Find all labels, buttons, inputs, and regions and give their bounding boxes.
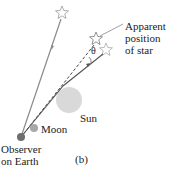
moon-label: Moon	[41, 123, 67, 135]
sun-label: Sun	[80, 112, 97, 124]
apparent-position-label: Apparent position of star	[125, 20, 166, 56]
observer-label: Observer on Earth	[1, 143, 41, 167]
distant-star-icon	[56, 6, 69, 19]
theta-arc	[89, 57, 91, 63]
theta-label: θ	[91, 45, 96, 57]
observer-label-line-1: Observer	[1, 143, 41, 155]
actual-star-icon	[100, 43, 113, 56]
apparent-label-line-3: of star	[125, 44, 166, 56]
apparent-star-icon	[90, 32, 103, 45]
apparent-label-line-2: position	[125, 32, 166, 44]
panel-label: (b)	[75, 153, 88, 165]
sun-circle	[56, 87, 82, 113]
label-leader-line	[100, 24, 123, 36]
ray-arrow-icon	[51, 45, 54, 50]
moon-circle	[30, 124, 38, 132]
light-deflection-diagram: Apparent position of star θ Sun Moon Obs…	[0, 0, 173, 169]
observer-label-line-2: on Earth	[1, 155, 41, 167]
apparent-label-line-1: Apparent	[125, 20, 166, 32]
star-ray-line	[21, 19, 61, 137]
observer-dot	[17, 133, 25, 141]
